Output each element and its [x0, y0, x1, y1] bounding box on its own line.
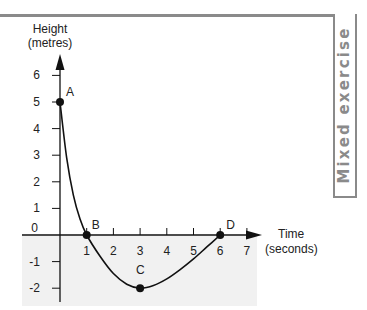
y-tick-label: 1 [33, 201, 40, 215]
x-tick-label: 1 [83, 244, 90, 258]
x-axis-title-line2: (seconds) [265, 242, 318, 256]
point-label-d: D [226, 218, 235, 232]
point-label-a: A [66, 85, 74, 99]
point-d [216, 231, 224, 239]
point-b [83, 231, 91, 239]
y-tick-label: 4 [33, 122, 40, 136]
chart: 12345676543210-1-2 ABCD Height(metres)Ti… [0, 0, 367, 310]
point-a [56, 98, 64, 106]
x-tick-label: 3 [137, 244, 144, 258]
y-tick-label: 3 [33, 148, 40, 162]
x-tick-label: 2 [110, 244, 117, 258]
y-tick-label: 2 [33, 175, 40, 189]
y-tick-label: -1 [29, 255, 40, 269]
y-axis-title-line2: (metres) [28, 36, 73, 50]
y-tick-label: 5 [33, 95, 40, 109]
y-axis-arrow-icon [56, 54, 65, 70]
y-tick-label: -2 [29, 281, 40, 295]
y-tick-label: 6 [33, 68, 40, 82]
y-tick-label: 0 [31, 221, 38, 235]
x-tick-label: 6 [217, 244, 224, 258]
x-tick-label: 4 [163, 244, 170, 258]
axis-titles: Height(metres)Time(seconds) [28, 22, 318, 256]
point-label-b: B [92, 218, 100, 232]
y-axis-title-line1: Height [33, 22, 68, 36]
point-c [136, 284, 144, 292]
point-label-c: C [136, 263, 145, 277]
x-tick-label: 7 [244, 244, 251, 258]
x-axis-title-line1: Time [278, 227, 305, 241]
